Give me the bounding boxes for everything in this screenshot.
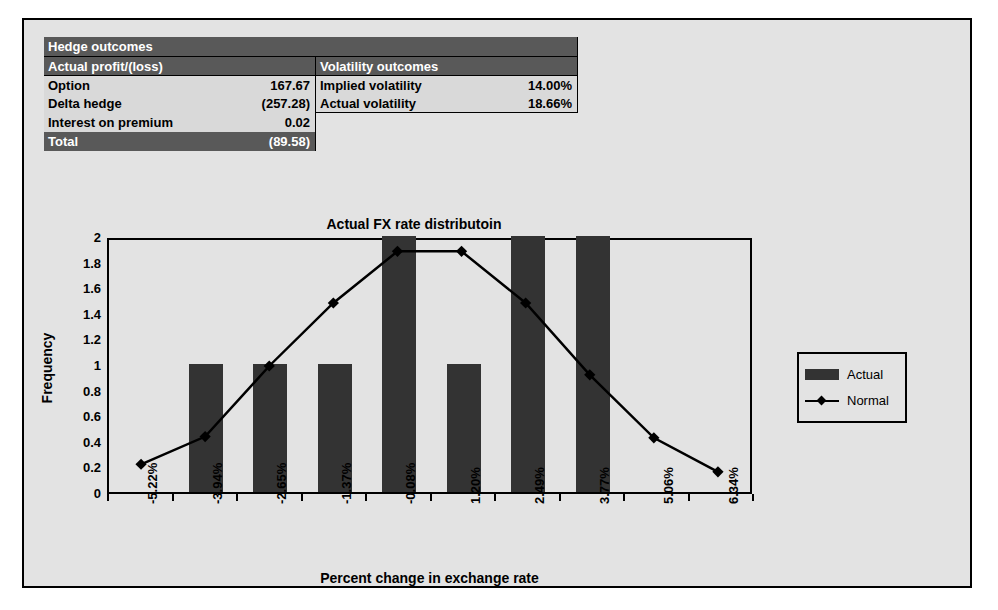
x-tick-mark	[107, 494, 109, 501]
table-row: Interest on premium 0.02	[44, 113, 578, 132]
x-tick-label: 3.77%	[597, 467, 612, 504]
y-tick-label: 0	[61, 486, 101, 501]
table-row-section-headers: Actual profit/(loss) Volatility outcomes	[44, 56, 578, 75]
left-section-header-spacer	[223, 57, 315, 75]
x-tick-label: -1.37%	[339, 463, 354, 504]
row-value: 0.02	[223, 113, 315, 132]
row-label: Actual volatility	[316, 94, 485, 112]
legend-label: Actual	[847, 367, 883, 382]
right-section-header: Volatility outcomes	[316, 57, 485, 75]
y-axis-title: Frequency	[39, 313, 55, 423]
plot-area	[107, 238, 752, 494]
y-tick-label: 2	[61, 230, 101, 245]
normal-line-path	[141, 251, 718, 472]
x-tick-label: 2.49%	[532, 467, 547, 504]
row-value: 18.66%	[485, 94, 577, 112]
line-series-normal	[109, 240, 750, 492]
chart-legend: Actual Normal	[797, 352, 907, 423]
row-value: 167.67	[223, 76, 315, 94]
x-tick-label: -3.94%	[210, 463, 225, 504]
table-row-main-header: Hedge outcomes	[44, 37, 578, 56]
x-tick-mark	[430, 494, 432, 501]
fx-distribution-chart: Actual FX rate distributoin Frequency Pe…	[24, 180, 970, 586]
y-tick-label: 1.8	[61, 256, 101, 271]
table-row: Delta hedge (257.28) Actual volatility 1…	[44, 94, 578, 113]
table-row: Option 167.67 Implied volatility 14.00%	[44, 75, 578, 94]
total-value: (89.58)	[223, 132, 315, 151]
y-tick-label: 0.8	[61, 384, 101, 399]
chart-figure-frame: Hedge outcomes Actual profit/(loss) Vola…	[22, 18, 972, 588]
y-tick-label: 1.6	[61, 281, 101, 296]
row-value: (257.28)	[223, 94, 315, 113]
left-section-header: Actual profit/(loss)	[44, 57, 223, 75]
legend-item-actual: Actual	[805, 361, 899, 387]
x-tick-mark	[559, 494, 561, 501]
right-block-empty-2	[316, 132, 488, 151]
y-tick-label: 1.2	[61, 332, 101, 347]
x-tick-mark	[365, 494, 367, 501]
right-section-header-spacer	[485, 57, 577, 75]
row-label: Interest on premium	[44, 113, 223, 132]
x-tick-label: 1.20%	[468, 467, 483, 504]
x-tick-mark	[494, 494, 496, 501]
y-tick-label: 0.6	[61, 409, 101, 424]
y-tick-label: 1	[61, 358, 101, 373]
x-tick-mark	[752, 494, 754, 501]
y-axis-tick-labels: 00.20.40.60.811.21.41.61.82	[57, 238, 101, 494]
x-tick-mark	[301, 494, 303, 501]
plot-inner	[109, 240, 750, 492]
x-tick-mark	[688, 494, 690, 501]
bar-swatch-icon	[805, 369, 839, 380]
x-axis-title: Percent change in exchange rate	[107, 570, 752, 586]
row-label: Delta hedge	[44, 94, 223, 113]
x-tick-label: 5.06%	[661, 467, 676, 504]
x-tick-mark	[623, 494, 625, 501]
line-diamond-swatch-icon	[805, 395, 839, 406]
row-label: Option	[44, 76, 223, 94]
right-block-empty	[316, 113, 488, 132]
legend-label: Normal	[847, 393, 889, 408]
total-label: Total	[44, 132, 223, 151]
x-tick-mark	[172, 494, 174, 501]
x-tick-label: -5.22%	[145, 463, 160, 504]
hedge-outcomes-table: Hedge outcomes Actual profit/(loss) Vola…	[44, 37, 578, 151]
row-value: 14.00%	[485, 76, 577, 94]
table-row-total: Total (89.58)	[44, 132, 578, 151]
data-point-marker	[712, 466, 723, 477]
legend-item-normal: Normal	[805, 387, 899, 413]
x-tick-mark	[236, 494, 238, 501]
y-tick-label: 0.4	[61, 435, 101, 450]
x-tick-label: -2.65%	[274, 463, 289, 504]
y-tick-label: 0.2	[61, 460, 101, 475]
row-label: Implied volatility	[316, 76, 485, 94]
y-tick-label: 1.4	[61, 307, 101, 322]
x-tick-label: 6.34%	[726, 467, 741, 504]
x-tick-label: -0.08%	[403, 463, 418, 504]
main-header-label: Hedge outcomes	[44, 37, 578, 56]
chart-title: Actual FX rate distributoin	[204, 216, 624, 232]
